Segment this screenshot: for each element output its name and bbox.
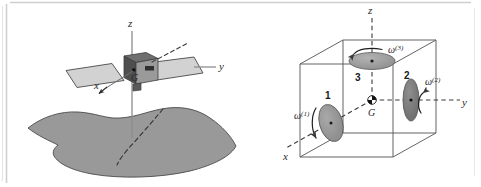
left-axis-x-label: x: [93, 79, 99, 91]
reaction-wheel-1-number: 1: [325, 90, 331, 101]
right-center-g-label: G: [368, 107, 375, 118]
reaction-wheel-2-number: 2: [404, 70, 410, 81]
reaction-wheel-2: 2 ω(2): [403, 70, 441, 121]
left-panel-group: z y: [28, 17, 236, 177]
right-center-g: G: [368, 96, 377, 118]
reaction-wheel-3-number: 3: [355, 72, 361, 83]
right-axis-y-label: y: [461, 96, 467, 108]
reaction-wheel-3: 3 ω(3): [349, 44, 404, 83]
right-panel-group: z y x 3 ω(3) 2: [282, 4, 467, 162]
satellite-body: [124, 53, 158, 92]
reaction-wheel-2-omega: ω(2): [425, 76, 441, 87]
figure-svg: z y: [0, 0, 481, 187]
right-axis-z-label: z: [367, 4, 373, 16]
reaction-wheel-3-omega: ω(3): [388, 44, 404, 55]
left-axis-y-label: y: [218, 60, 224, 72]
right-axis-x-label: x: [282, 150, 288, 162]
reaction-wheel-1-omega: ω(1): [294, 110, 310, 121]
reaction-wheel-1: 1 ω(1): [294, 90, 347, 144]
left-axis-z-label: z: [127, 17, 133, 29]
right-axis-z: z: [367, 4, 373, 100]
left-center-g-label: G: [131, 72, 138, 83]
figure-container: z y: [0, 0, 481, 187]
